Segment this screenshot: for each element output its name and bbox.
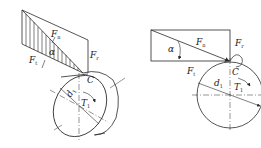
left-labels: Fn α Ft Fr C d1 T1 xyxy=(28,29,99,109)
gear-force-diagram: Fn α Ft Fr C d1 T1 Fn α Ft Fr C d1 T1 xyxy=(0,0,261,148)
fn-vector xyxy=(151,30,229,61)
label-alpha-left: α xyxy=(49,47,55,57)
label-ft-left: Ft xyxy=(28,55,37,66)
label-fn-left: Fn xyxy=(50,29,61,40)
label-fr-right: Fr xyxy=(234,38,244,49)
label-ft-right: Ft xyxy=(186,66,195,77)
label-fr-left: Fr xyxy=(89,50,99,61)
label-fn-right: Fn xyxy=(195,37,206,48)
label-c-right: C xyxy=(232,67,239,77)
label-alpha-right: α xyxy=(168,44,174,54)
label-t1-right: T1 xyxy=(234,82,243,93)
label-d1-right: d1 xyxy=(214,78,223,89)
left-figure xyxy=(22,10,125,146)
label-d1-left: d1 xyxy=(64,86,78,99)
label-c-left: C xyxy=(87,75,94,85)
label-t1-left: T1 xyxy=(81,98,90,109)
